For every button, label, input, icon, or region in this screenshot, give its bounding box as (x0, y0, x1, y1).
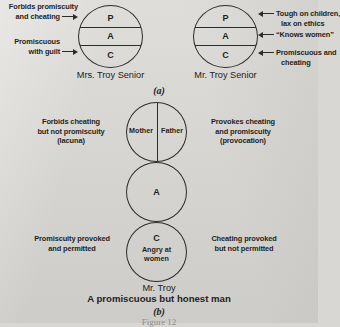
panel-b-label: (b) (129, 306, 189, 317)
annotation-b-child-left-line1: Promiscuity provoked (24, 234, 120, 243)
mr-troy-parent-father-label: Father (157, 127, 187, 135)
mr-troy-senior-segment-p: P (193, 13, 258, 23)
annotation-b-parent-right-line3: (provocation) (198, 136, 288, 145)
figure-number: Figure 12 (109, 317, 209, 327)
annotation-mrs-p-line1: Forbids promiscuity (0, 2, 78, 11)
annotation-mr-p-line2: lax on ethics (281, 19, 321, 28)
mr-troy-child-label: C (126, 233, 187, 243)
mr-troy-senior-divider-pa (195, 27, 256, 28)
annotation-mrs-p-line2: and cheating (0, 12, 60, 21)
mrs-troy-senior-caption: Mrs. Troy Senior (48, 70, 173, 80)
annotation-mrs-c-line1: Promiscuous (0, 37, 60, 46)
mr-troy-parent-mother-label: Mother (126, 127, 156, 135)
mr-troy-senior-caption: Mr. Troy Senior (163, 70, 288, 80)
mr-troy-caption-subtitle: A promiscuous but honest man (49, 294, 269, 304)
arrow-mr-c (263, 52, 274, 53)
arrow-mr-a (263, 34, 274, 35)
mr-troy-adult-label: A (126, 187, 187, 197)
mrs-troy-senior-segment-a: A (78, 31, 143, 41)
annotation-b-parent-left-line1: Forbids cheating (26, 117, 116, 126)
annotation-mrs-c-line2: with guilt (0, 47, 60, 56)
mr-troy-senior-divider-ac (195, 45, 256, 46)
arrow-mrs-c (62, 51, 73, 52)
annotation-b-parent-left-line3: (lacuna) (26, 136, 116, 145)
mrs-troy-senior-divider-ac (80, 45, 141, 46)
annotation-b-parent-right-line2: and promiscuity (198, 127, 288, 136)
annotation-b-parent-left-line2: but not promiscuity (26, 127, 116, 136)
annotation-b-child-right-line1: Cheating provoked (196, 234, 292, 243)
panel-a-label: (a) (129, 85, 189, 96)
mr-troy-senior-segment-a: A (193, 31, 258, 41)
annotation-b-child-right-line2: but not permitted (196, 244, 292, 253)
arrow-mrs-p (62, 16, 73, 17)
annotation-mr-a-line1: “Knows women” (276, 30, 320, 39)
mrs-troy-senior-segment-p: P (78, 13, 143, 23)
arrow-mr-p (263, 13, 274, 14)
annotation-mr-c-line1: Promiscuous and (276, 48, 320, 57)
mrs-troy-senior-divider-pa (80, 27, 141, 28)
annotation-mr-c-line2: cheating (281, 58, 321, 67)
annotation-b-parent-right-line1: Provokes cheating (198, 117, 288, 126)
annotation-b-child-left-line2: and permitted (24, 244, 120, 253)
mr-troy-caption-name: Mr. Troy (99, 283, 219, 293)
annotation-mr-p-line1: Tough on children, (276, 9, 320, 18)
mr-troy-child-subline-2: women (126, 255, 187, 263)
mr-troy-senior-segment-c: C (193, 50, 258, 60)
mrs-troy-senior-segment-c: C (78, 50, 143, 60)
